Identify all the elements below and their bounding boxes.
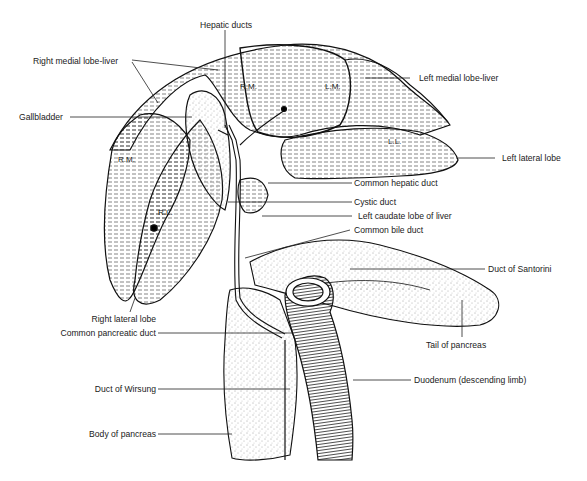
label-common-bile-duct: Common bile duct xyxy=(354,225,423,235)
label-common-pancreatic-duct: Common pancreatic duct xyxy=(20,328,156,338)
lobe-mark-rl: R.L. xyxy=(158,208,173,217)
label-tail-of-pancreas: Tail of pancreas xyxy=(426,340,486,350)
lobe-mark-rm-left: R.M. xyxy=(118,155,135,164)
label-left-lateral-lobe: Left lateral lobe xyxy=(502,153,561,163)
label-left-caudate-lobe: Left caudate lobe of liver xyxy=(358,211,452,221)
label-duct-of-wirsung: Duct of Wirsung xyxy=(60,384,156,394)
label-gallbladder: Gallbladder xyxy=(19,112,63,122)
label-body-of-pancreas: Body of pancreas xyxy=(50,429,156,439)
label-cystic-duct: Cystic duct xyxy=(354,197,396,207)
caudate-lobe xyxy=(238,178,268,213)
lobe-mark-ll: L.L. xyxy=(388,137,401,146)
label-left-medial-lobe-liver: Left medial lobe-liver xyxy=(419,73,498,83)
label-hepatic-ducts: Hepatic ducts xyxy=(200,20,252,30)
label-common-hepatic-duct: Common hepatic duct xyxy=(354,178,438,188)
liver-left-lateral-lobe xyxy=(281,128,458,179)
label-duct-of-santorini: Duct of Santorini xyxy=(488,264,552,274)
anatomy-illustration xyxy=(0,0,587,481)
label-right-lateral-lobe: Right lateral lobe xyxy=(60,314,156,324)
lobe-mark-lm: L.M. xyxy=(325,82,341,91)
label-duodenum: Duodenum (descending limb) xyxy=(414,375,526,385)
label-right-medial-lobe-liver: Right medial lobe-liver xyxy=(33,56,118,66)
lobe-mark-rm-upper: R.M. xyxy=(240,82,257,91)
pancreas-body-shape xyxy=(224,288,297,460)
